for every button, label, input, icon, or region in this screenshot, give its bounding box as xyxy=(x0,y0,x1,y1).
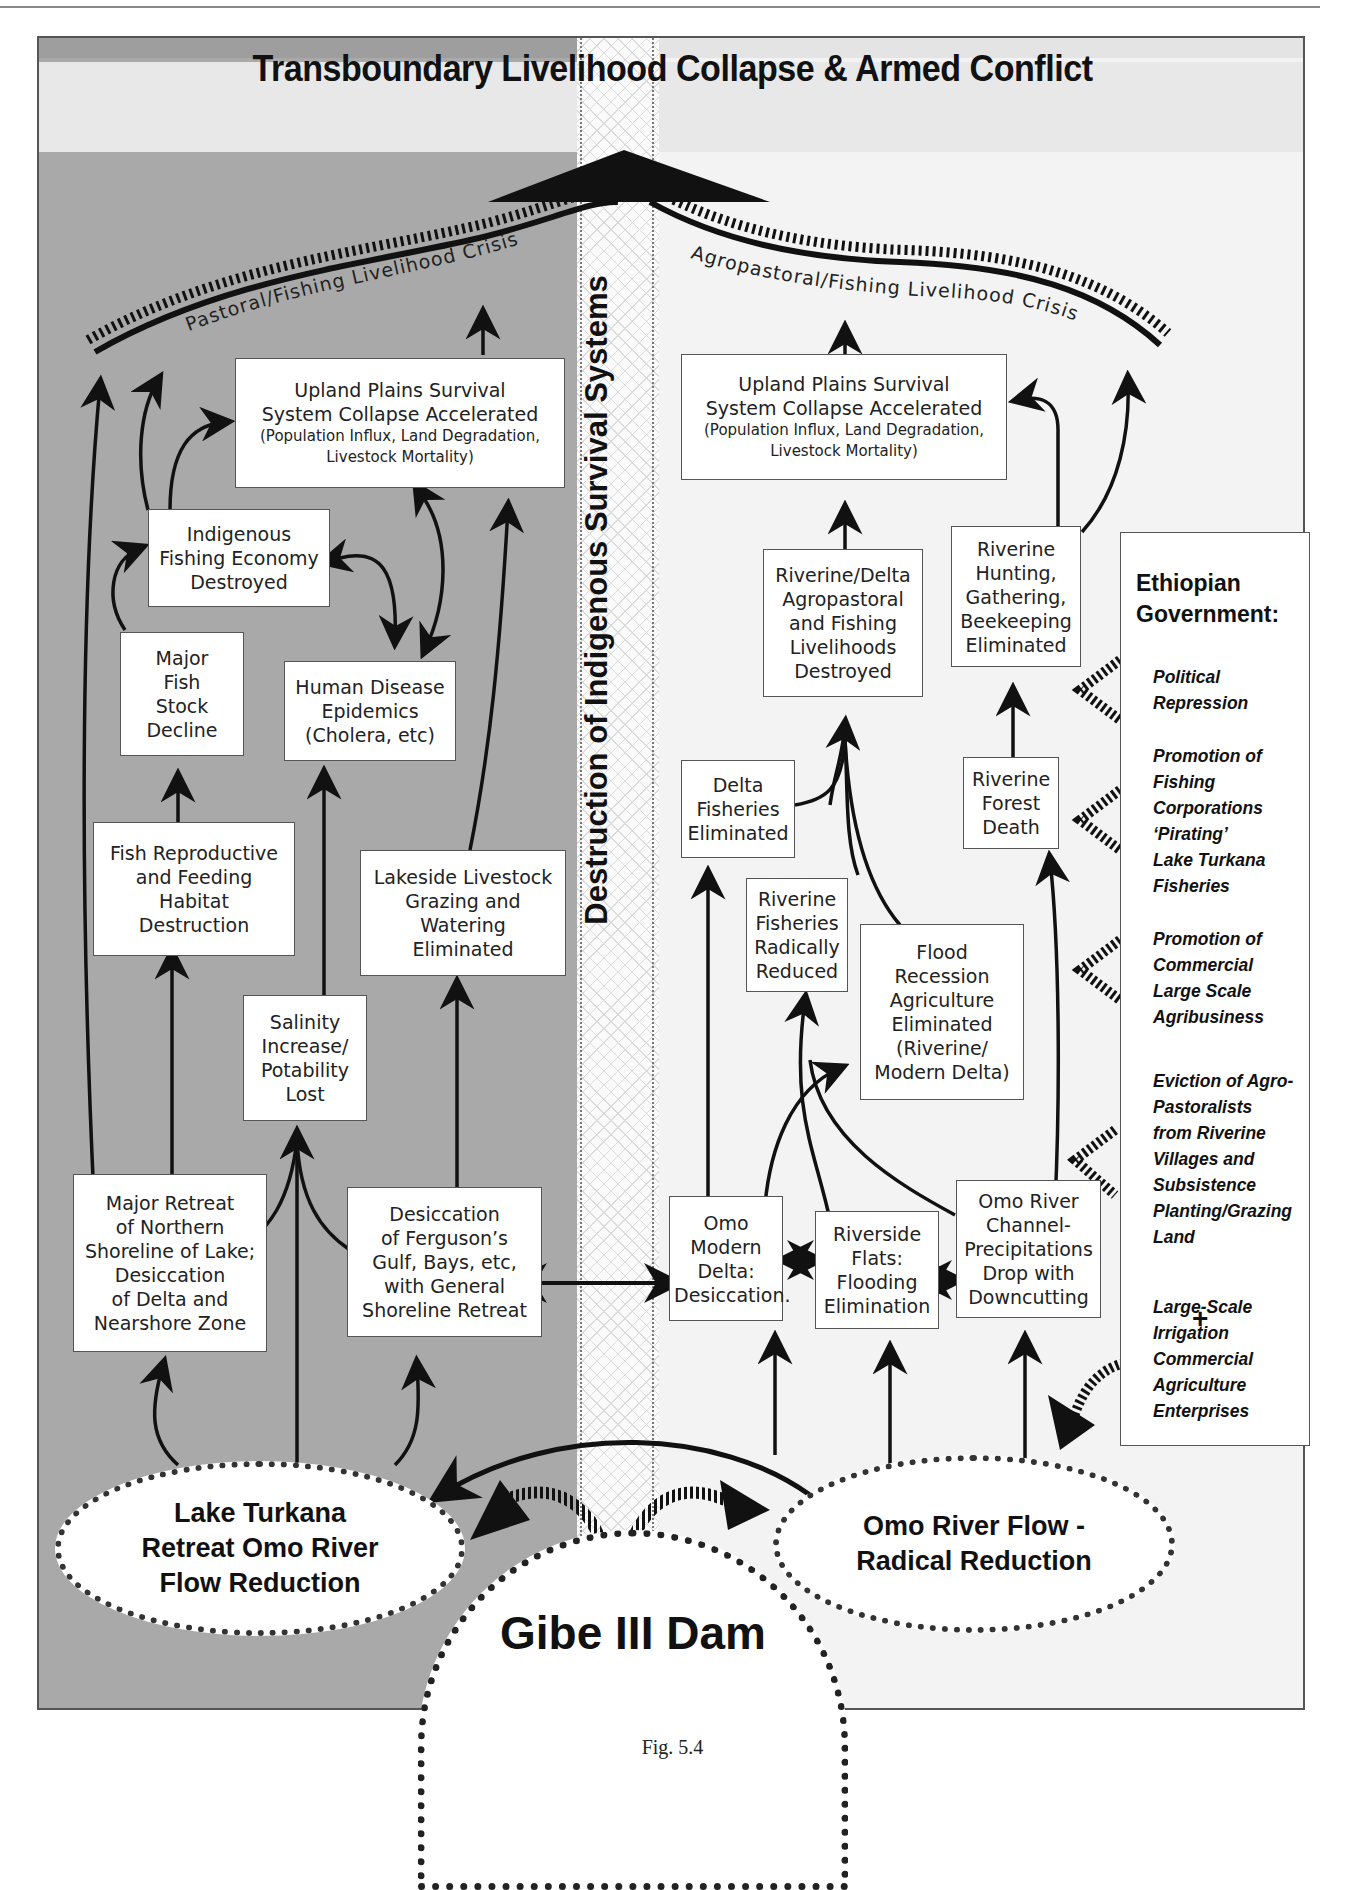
right-upland-title: Upland Plains Survival System Collapse A… xyxy=(686,372,1002,420)
fish-stock-decline-box: Major Fish Stock Decline xyxy=(120,632,244,756)
left-upland-subtitle: (Population Influx, Land Degradation, Li… xyxy=(240,426,560,468)
lake-turkana-ellipse: Lake Turkana Retreat Omo River Flow Redu… xyxy=(55,1461,465,1636)
government-title: Ethiopian Government: xyxy=(1136,568,1279,630)
gov-item-fishing-corporations: Promotion of Fishing Corporations ‘Pirat… xyxy=(1153,743,1266,899)
riverine-hunting-box: Riverine Hunting, Gathering, Beekeeping … xyxy=(951,526,1081,667)
lakeside-livestock-box: Lakeside Livestock Grazing and Watering … xyxy=(360,850,566,976)
salinity-box: Salinity Increase/ Potability Lost xyxy=(243,995,367,1121)
major-retreat-box: Major Retreat of Northern Shoreline of L… xyxy=(73,1174,267,1352)
diagram-title: Transboundary Livelihood Collapse & Arme… xyxy=(54,48,1291,90)
human-disease-box: Human Disease Epidemics (Cholera, etc) xyxy=(284,661,456,761)
flood-recession-box: Flood Recession Agriculture Eliminated (… xyxy=(860,924,1024,1100)
delta-fisheries-box: Delta Fisheries Eliminated xyxy=(681,760,795,858)
riverine-delta-livelihoods-box: Riverine/Delta Agropastoral and Fishing … xyxy=(763,549,923,697)
center-band-right-edge xyxy=(652,38,656,1708)
gov-item-political-repression: Political Repression xyxy=(1153,664,1248,716)
gov-item-irrigation: Large-Scale Irrigation Commercial Agricu… xyxy=(1153,1294,1253,1424)
center-vertical-title: Destruction of Indigenous Survival Syste… xyxy=(579,200,615,1000)
gibe-dam-label: Gibe III Dam xyxy=(418,1606,848,1660)
right-upland-subtitle: (Population Influx, Land Degradation, Li… xyxy=(686,420,1002,462)
left-upland-plains-box: Upland Plains Survival System Collapse A… xyxy=(235,358,565,488)
omo-modern-delta-box: Omo Modern Delta: Desiccation. xyxy=(669,1196,783,1321)
omo-channel-box: Omo River Channel- Precipitations Drop w… xyxy=(956,1180,1101,1318)
left-upland-title: Upland Plains Survival System Collapse A… xyxy=(240,378,560,426)
fish-habitat-destruction-box: Fish Reproductive and Feeding Habitat De… xyxy=(93,822,295,956)
page-header-rule xyxy=(0,6,1320,8)
gov-item-eviction: Eviction of Agro- Pastoralists from Rive… xyxy=(1153,1068,1293,1250)
gov-item-agribusiness: Promotion of Commercial Large Scale Agri… xyxy=(1153,926,1264,1030)
right-upland-plains-box: Upland Plains Survival System Collapse A… xyxy=(681,354,1007,480)
riverine-forest-death-box: Riverine Forest Death xyxy=(963,757,1059,849)
figure-caption: Fig. 5.4 xyxy=(0,1736,1345,1759)
ferguson-gulf-box: Desiccation of Ferguson’s Gulf, Bays, et… xyxy=(347,1187,542,1337)
riverine-fisheries-box: Riverine Fisheries Radically Reduced xyxy=(746,878,848,992)
indigenous-fishing-economy-box: Indigenous Fishing Economy Destroyed xyxy=(148,509,330,607)
riverside-flats-box: Riverside Flats: Flooding Elimination xyxy=(815,1211,939,1329)
